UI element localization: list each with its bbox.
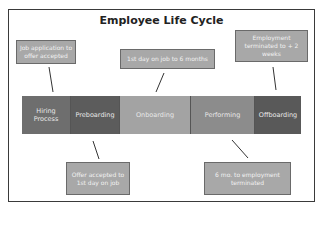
stage-onboarding: Onboarding: [120, 96, 191, 134]
callout-hiring: Job application to offer accepted: [16, 40, 76, 64]
stage-preboarding: Preboarding: [71, 96, 120, 134]
callout-preboarding: Offer accepted to 1st day on job: [66, 162, 130, 195]
callout-onboarding: 1st day on job to 6 months: [120, 49, 215, 69]
callout-offboarding: Employment terminated to + 2 weeks: [235, 30, 308, 62]
callout-performing: 6 mo. to employment terminated: [204, 162, 291, 195]
stage-hiring-process: Hiring Process: [22, 96, 71, 134]
lifecycle-bar: Hiring Process Preboarding Onboarding Pe…: [22, 96, 301, 134]
stage-performing: Performing: [191, 96, 255, 134]
stage-offboarding: Offboarding: [255, 96, 301, 134]
